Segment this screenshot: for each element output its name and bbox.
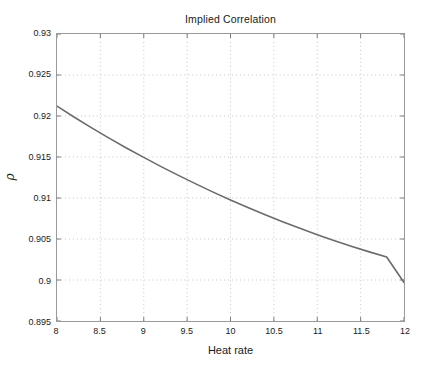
- x-tick-label: 8: [53, 326, 58, 336]
- y-tick-label: 0.9: [6, 276, 51, 286]
- grid-lines: [57, 34, 404, 321]
- x-tick-label: 10: [225, 326, 235, 336]
- x-tick-label: 11.5: [353, 326, 370, 336]
- x-tick-label: 12: [400, 326, 410, 336]
- plot-svg: [57, 34, 404, 321]
- figure-canvas: Implied Correlation 0.8950.90.9050.910.9…: [0, 0, 429, 366]
- y-tick-label: 0.915: [6, 152, 51, 162]
- data-curves: [57, 106, 404, 282]
- data-line: [57, 106, 404, 282]
- y-tick-label: 0.925: [6, 69, 51, 79]
- x-tick-label: 11: [313, 326, 322, 336]
- x-tick-label: 9.5: [181, 326, 194, 336]
- chart-title: Implied Correlation: [56, 13, 405, 25]
- x-axis-label: Heat rate: [56, 344, 405, 356]
- plot-area: [56, 33, 405, 322]
- y-tick-label: 0.895: [6, 317, 51, 327]
- y-tick-label: 0.92: [6, 111, 51, 121]
- y-axis-label: ρ: [3, 173, 17, 180]
- x-tick-label: 10.5: [265, 326, 283, 336]
- y-tick-label: 0.91: [6, 193, 51, 203]
- x-tick-label: 8.5: [93, 326, 106, 336]
- y-tick-label: 0.93: [6, 28, 51, 38]
- y-tick-label: 0.905: [6, 234, 51, 244]
- x-tick-label: 9: [141, 326, 146, 336]
